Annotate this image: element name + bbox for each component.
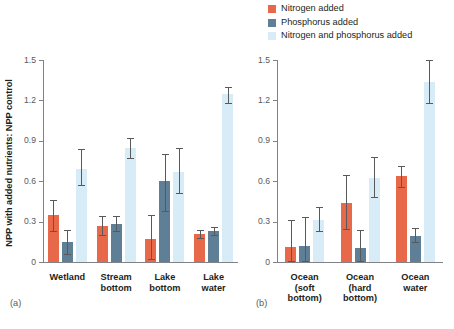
error-bar-line xyxy=(319,207,320,231)
y-axis-line xyxy=(277,60,278,263)
y-axis-tick-label: 1.2 xyxy=(243,95,270,105)
panel-a-tag: (a) xyxy=(10,298,21,308)
error-bar-cap-upper xyxy=(412,228,419,229)
error-bar-cap-lower xyxy=(316,231,323,232)
error-bar-line xyxy=(429,60,430,103)
y-axis-tick-label: 0.6 xyxy=(243,176,270,186)
error-bar-cap-lower xyxy=(357,261,364,262)
error-bar-cap-lower xyxy=(371,197,378,198)
y-axis-tick xyxy=(273,262,277,263)
error-bar-line xyxy=(291,220,292,262)
error-bar-cap-upper xyxy=(288,220,295,221)
y-axis-tick-label: 0.9 xyxy=(243,135,270,145)
error-bar-line xyxy=(346,175,347,229)
error-bar-cap-upper xyxy=(316,207,323,208)
error-bar-cap-upper xyxy=(371,157,378,158)
error-bar-line xyxy=(415,228,416,243)
bar-nitrogen-and-phosphorus-added xyxy=(424,82,435,262)
error-bar-cap-lower xyxy=(302,261,309,262)
error-bar-cap-lower xyxy=(398,187,405,188)
error-bar-cap-upper xyxy=(302,217,309,218)
error-bar-cap-lower xyxy=(412,242,419,243)
y-axis-tick xyxy=(273,60,277,61)
y-axis-tick xyxy=(273,181,277,182)
error-bar-line xyxy=(374,157,375,197)
error-bar-line xyxy=(401,166,402,188)
bar-nitrogen-added xyxy=(396,176,407,262)
panel-b: 00.30.60.91.21.5Ocean(softbottom)Ocean(h… xyxy=(0,0,454,329)
error-bar-cap-upper xyxy=(357,230,364,231)
error-bar-cap-lower xyxy=(343,229,350,230)
y-axis-tick xyxy=(273,100,277,101)
y-axis-tick xyxy=(273,222,277,223)
error-bar-line xyxy=(360,230,361,261)
y-axis-tick-label: 1.5 xyxy=(243,55,270,65)
x-axis-label-line: bottom) xyxy=(327,293,393,304)
x-axis-label-line: Ocean xyxy=(382,272,448,283)
x-axis-label-line: water xyxy=(382,283,448,294)
panel-b-tag: (b) xyxy=(256,298,267,308)
y-axis-tick xyxy=(273,141,277,142)
error-bar-cap-upper xyxy=(426,60,433,61)
y-axis-tick-label: 0 xyxy=(243,257,270,267)
x-axis-line xyxy=(277,262,443,263)
error-bar-cap-lower xyxy=(426,103,433,104)
error-bar-cap-upper xyxy=(398,166,405,167)
y-axis-tick-label: 0.3 xyxy=(243,216,270,226)
x-axis-label: Oceanwater xyxy=(382,272,448,293)
error-bar-line xyxy=(305,217,306,261)
figure-root: Nitrogen added Phosphorus added Nitrogen… xyxy=(0,0,454,329)
error-bar-cap-upper xyxy=(343,175,350,176)
error-bar-cap-lower xyxy=(288,261,295,262)
